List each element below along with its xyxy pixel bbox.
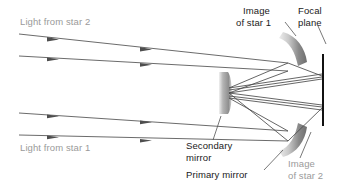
label-image-of-star-2-line2: of star 2 (288, 170, 323, 182)
leader-focal-plane (318, 26, 326, 44)
incoming-rays-star-1 (19, 113, 288, 141)
figure-canvas: Light from star 2 Light from star 1 Imag… (0, 0, 340, 190)
label-focal-plane-line2: plane (298, 17, 322, 29)
leader-primary-mirror (264, 150, 283, 170)
incoming-rays-star-2 (19, 34, 288, 71)
label-image-of-star-2-line1: Image (288, 158, 315, 170)
label-secondary-mirror-line2: mirror (186, 152, 211, 164)
ray-star1-a (19, 113, 288, 131)
label-light-from-star-1: Light from star 1 (20, 142, 90, 154)
label-light-from-star-2: Light from star 2 (20, 16, 90, 28)
label-focal-plane-line1: Focal (298, 5, 322, 17)
label-secondary-mirror-line1: Secondary (186, 140, 232, 152)
label-primary-mirror: Primary mirror (186, 169, 248, 181)
leader-secondary-mirror (213, 116, 221, 140)
ray-star1-b (19, 135, 288, 141)
label-image-of-star-1-line2: of star 1 (236, 17, 271, 29)
primary-mirror-upper (279, 32, 307, 66)
label-image-of-star-1-line1: Image (243, 5, 270, 17)
